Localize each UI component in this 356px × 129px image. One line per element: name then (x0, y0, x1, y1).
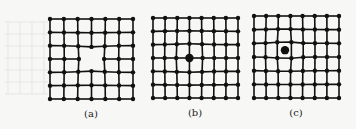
panel-label-c: (c) (289, 107, 303, 118)
lattice-panel-b: (b) (151, 16, 240, 118)
lattice-defect-figure: (a)(b)(c) (0, 0, 356, 129)
panel-label-a: (a) (84, 108, 98, 119)
panel-label-b: (b) (188, 107, 202, 118)
faint-background-grid (5, 22, 48, 94)
lattice-panel-a: (a) (48, 17, 135, 119)
interstitial-atom (281, 46, 289, 54)
lattice-panel-c: (c) (252, 14, 341, 118)
